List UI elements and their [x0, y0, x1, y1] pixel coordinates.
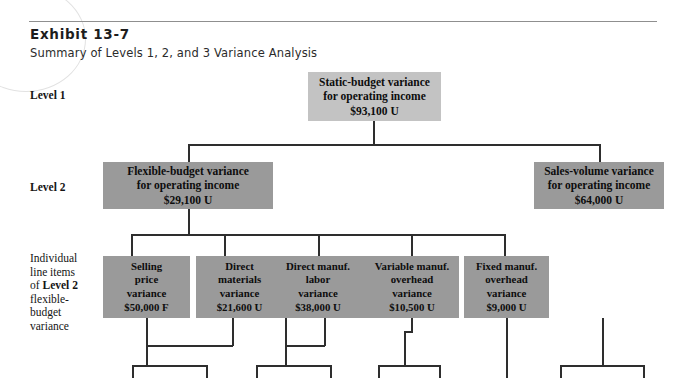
box-direct-materials-variance-amount: $21,600 U	[217, 301, 263, 315]
box-flexible-budget-variance[interactable]: Flexible-budget variance for operating i…	[103, 162, 273, 209]
connector-level3-drop-2	[224, 234, 226, 256]
box-static-budget-variance[interactable]: Static-budget variance for operating inc…	[308, 72, 441, 121]
box-selling-price-variance-line-2: price	[135, 273, 158, 287]
connector-level4-down-1	[146, 345, 148, 365]
connector-level2-right-drop	[599, 144, 601, 162]
rail-label-level-3-line-3-emphasis: Level 2	[42, 279, 77, 291]
box-fixed-manuf-overhead-variance-amount: $9,000 U	[486, 301, 526, 315]
rail-label-level-3: Individual line items of Level 2 flexibl…	[30, 252, 108, 334]
box-direct-manuf-labor-variance[interactable]: Direct manuf. labor variance $38,000 U	[271, 256, 365, 318]
rail-label-level-3-line-2: line items	[30, 266, 75, 278]
connector-level4-bus-2	[256, 365, 331, 367]
box-sales-volume-variance-amount: $64,000 U	[575, 193, 624, 208]
connector-level2-left-drop	[188, 144, 190, 162]
connector-level4-riser-up-3	[404, 331, 406, 365]
rail-label-level-3-line-1: Individual	[30, 252, 77, 264]
box-static-budget-variance-amount: $93,100 U	[350, 104, 399, 119]
connector-level1-bus	[188, 144, 600, 146]
box-fixed-manuf-overhead-variance-line-3: variance	[487, 287, 527, 301]
box-flexible-budget-variance-line-1: Flexible-budget variance	[127, 164, 249, 179]
box-direct-manuf-labor-variance-line-3: variance	[298, 287, 338, 301]
connector-level4-leg-2b	[330, 365, 332, 378]
connector-level3-drop-3	[318, 234, 320, 256]
rail-label-level-3-line-5: budget	[30, 306, 61, 318]
connector-level4-leg-2a	[256, 365, 258, 378]
box-direct-manuf-labor-variance-line-2: labor	[306, 273, 331, 287]
connector-level4-stem-4	[506, 318, 508, 378]
connector-level4-leg-5a	[560, 365, 562, 378]
connector-level4-stem-1	[146, 318, 148, 346]
connector-level4-stem-3	[411, 318, 413, 332]
box-variable-manuf-overhead-variance-line-3: variance	[392, 287, 432, 301]
box-sales-volume-variance-line-1: Sales-volume variance	[544, 164, 654, 179]
connector-level4-leg-5b	[643, 365, 645, 378]
rail-label-level-1: Level 1	[30, 89, 65, 101]
box-selling-price-variance-line-1: Selling	[131, 260, 162, 274]
connector-level4-bus-5	[560, 365, 644, 367]
connector-level4-riser-2	[285, 345, 325, 347]
connector-level4-riser-up-1	[232, 318, 234, 346]
connector-level1-stem	[373, 121, 375, 145]
connector-level4-riser-1	[146, 345, 233, 347]
connector-level4-down-2	[285, 345, 287, 365]
box-direct-materials-variance-line-3: variance	[220, 287, 260, 301]
rail-label-level-2: Level 2	[30, 181, 65, 193]
box-direct-materials-variance-line-1: Direct	[225, 260, 254, 274]
header-divider	[29, 21, 657, 22]
connector-level4-bus-3	[378, 365, 440, 367]
box-direct-materials-variance[interactable]: Direct materials variance $21,600 U	[196, 256, 283, 318]
box-variable-manuf-overhead-variance-amount: $10,500 U	[389, 301, 435, 315]
box-variable-manuf-overhead-variance-line-1: Variable manuf.	[375, 260, 450, 274]
box-selling-price-variance[interactable]: Selling price variance $50,000 F	[103, 256, 190, 318]
connector-level4-riser-up-2	[324, 318, 326, 346]
rail-label-level-3-line-3-prefix: of	[30, 279, 42, 291]
connector-level4-leg-1b	[206, 365, 208, 378]
exhibit-page: Exhibit 13-7 Summary of Levels 1, 2, and…	[0, 0, 682, 378]
box-variable-manuf-overhead-variance-line-2: overhead	[391, 273, 434, 287]
connector-level4-stem-2	[285, 318, 287, 346]
box-flexible-budget-variance-line-2: for operating income	[137, 178, 240, 193]
connector-level2-flex-stem	[188, 209, 190, 235]
box-sales-volume-variance[interactable]: Sales-volume variance for operating inco…	[534, 162, 664, 209]
exhibit-title: Exhibit 13-7	[30, 26, 130, 42]
connector-level4-leg-3a	[378, 365, 380, 378]
connector-level4-bus-1	[132, 365, 207, 367]
connector-level4-stem-5	[602, 318, 604, 365]
box-fixed-manuf-overhead-variance-line-2: overhead	[485, 273, 528, 287]
box-direct-manuf-labor-variance-line-1: Direct manuf.	[286, 260, 350, 274]
box-selling-price-variance-amount: $50,000 F	[124, 301, 168, 315]
box-sales-volume-variance-line-2: for operating income	[548, 178, 651, 193]
box-flexible-budget-variance-amount: $29,100 U	[164, 193, 213, 208]
connector-level3-drop-1	[131, 234, 133, 256]
box-variable-manuf-overhead-variance[interactable]: Variable manuf. overhead variance $10,50…	[365, 256, 459, 318]
box-static-budget-variance-line-2: for operating income	[323, 89, 426, 104]
connector-level3-drop-4	[411, 234, 413, 256]
connector-level4-leg-3b	[439, 365, 441, 378]
box-fixed-manuf-overhead-variance-line-1: Fixed manuf.	[476, 260, 537, 274]
box-direct-materials-variance-line-2: materials	[218, 273, 261, 287]
rail-label-level-3-line-4: flexible-	[30, 293, 69, 305]
box-selling-price-variance-line-3: variance	[127, 287, 167, 301]
exhibit-subtitle: Summary of Levels 1, 2, and 3 Variance A…	[30, 46, 317, 60]
box-direct-manuf-labor-variance-amount: $38,000 U	[295, 301, 341, 315]
connector-level4-leg-1a	[132, 365, 134, 378]
box-fixed-manuf-overhead-variance[interactable]: Fixed manuf. overhead variance $9,000 U	[464, 256, 549, 318]
connector-level3-drop-5	[504, 234, 506, 256]
rail-label-level-3-line-6: variance	[30, 320, 69, 332]
box-static-budget-variance-line-1: Static-budget variance	[319, 75, 430, 90]
